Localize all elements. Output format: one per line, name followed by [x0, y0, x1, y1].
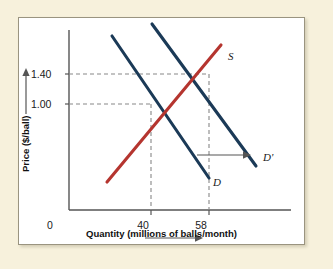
demand-curve-shifted: [152, 24, 256, 166]
supply-curve-label: S: [228, 50, 234, 62]
supply-demand-chart: S D D' 1.40 1.00 40 58 0: [19, 18, 304, 244]
y-axis-title: Price ($/ball): [20, 116, 31, 173]
demand-curve-label: D: [212, 176, 221, 188]
supply-curve: [107, 45, 221, 182]
y-axis-title-wrap: Price ($/ball): [15, 42, 35, 222]
demand-shifted-curve-label: D': [262, 151, 274, 163]
demand-shift-arrow: [197, 151, 251, 159]
chart-panel: S D D' 1.40 1.00 40 58 0: [18, 17, 305, 245]
figure-root: S D D' 1.40 1.00 40 58 0: [0, 0, 333, 269]
x-axis-title: Quantity (millions of balls/month): [18, 228, 305, 239]
